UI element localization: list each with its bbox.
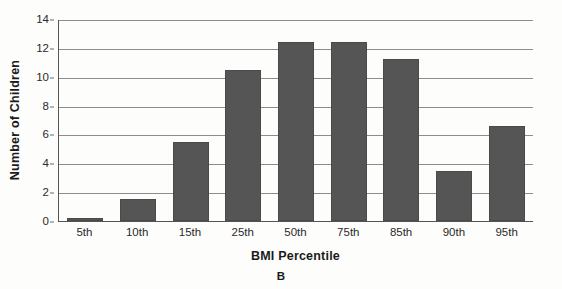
bar-slot	[112, 20, 165, 221]
bar-slot	[428, 20, 481, 221]
y-axis-tick-mark	[50, 222, 54, 223]
y-axis-title-text: Number of Children	[8, 60, 22, 180]
bar-50th[interactable]	[278, 42, 314, 221]
y-axis-tick-label: 0	[43, 216, 49, 228]
y-axis-tick-label: 12	[36, 43, 49, 55]
bar-slot	[322, 20, 375, 221]
bar-chart-figure: Number of Children 02468101214 5th10th15…	[0, 0, 562, 289]
x-axis-tick-label: 95th	[480, 226, 533, 246]
bar-slot	[375, 20, 428, 221]
y-axis-tick-label: 4	[43, 159, 49, 171]
y-axis-tick-label: 14	[36, 14, 49, 26]
panel-label: B	[0, 270, 562, 282]
x-axis-tick-label: 25th	[216, 226, 269, 246]
y-axis-tick-mark	[50, 77, 54, 78]
bar-slot	[59, 20, 112, 221]
y-axis-tick-mark	[50, 164, 54, 165]
x-axis-tick-labels: 5th10th15th25th50th75th85th90th95th	[58, 226, 533, 246]
bar-slot	[270, 20, 323, 221]
y-axis-tick-label: 2	[43, 187, 49, 199]
bar-75th[interactable]	[331, 42, 367, 221]
x-axis-tick-label: 75th	[322, 226, 375, 246]
bar-series	[59, 20, 533, 221]
bar-slot	[217, 20, 270, 221]
x-axis-tick-label: 85th	[375, 226, 428, 246]
bar-5th[interactable]	[67, 218, 103, 221]
x-axis-tick-label: 10th	[111, 226, 164, 246]
x-axis-title: BMI Percentile	[58, 249, 533, 263]
bar-25th[interactable]	[225, 70, 261, 221]
y-axis-tick-mark	[50, 48, 54, 49]
bar-15th[interactable]	[173, 142, 209, 221]
y-axis-tick-mark	[50, 193, 54, 194]
bar-85th[interactable]	[383, 59, 419, 221]
y-axis-tick-label: 6	[43, 130, 49, 142]
bar-slot	[480, 20, 533, 221]
y-axis-tick-mark	[50, 20, 54, 21]
x-axis-tick-label: 90th	[427, 226, 480, 246]
bar-slot	[164, 20, 217, 221]
y-axis-tick-mark	[50, 106, 54, 107]
x-axis-tick-label: 15th	[164, 226, 217, 246]
y-axis-tick-labels: 02468101214	[26, 20, 54, 222]
bar-10th[interactable]	[120, 199, 156, 221]
x-axis-tick-label: 50th	[269, 226, 322, 246]
x-axis-tick-label: 5th	[58, 226, 111, 246]
bar-90th[interactable]	[436, 171, 472, 222]
y-axis-tick-label: 10	[36, 72, 49, 84]
bar-95th[interactable]	[489, 126, 525, 221]
y-axis-tick-mark	[50, 135, 54, 136]
y-axis-tick-label: 8	[43, 101, 49, 113]
plot-area	[58, 20, 533, 222]
